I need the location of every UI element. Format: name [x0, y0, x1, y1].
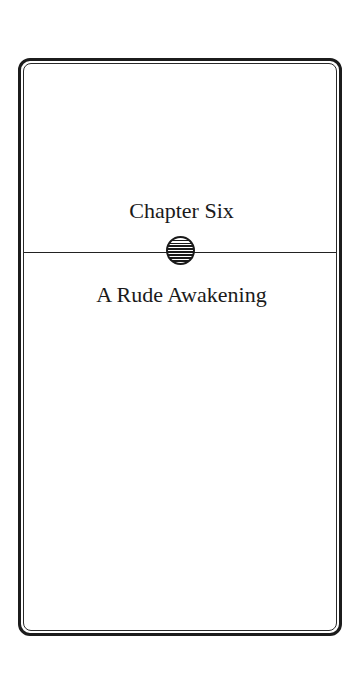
striped-circle-ornament-icon: [166, 236, 195, 265]
chapter-title: A Rude Awakening: [0, 282, 363, 308]
chapter-number: Chapter Six: [0, 198, 363, 224]
page-inner-border: [23, 63, 337, 631]
